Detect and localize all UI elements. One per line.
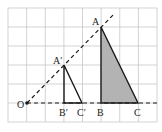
grid: [8, 8, 157, 122]
point-O: [25, 101, 29, 105]
label-O: O: [17, 99, 24, 110]
label-A-prime: A′: [53, 55, 62, 66]
label-C: C: [134, 107, 141, 118]
homothety-diagram: O A B C A′ B′ C′: [0, 0, 162, 132]
label-C-prime: C′: [77, 107, 86, 118]
label-B: B: [97, 107, 104, 118]
label-A: A: [92, 16, 100, 27]
label-B-prime: B′: [59, 107, 68, 118]
